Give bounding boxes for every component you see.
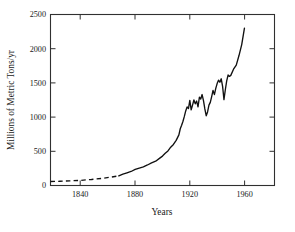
x-tick-label: 1840 (72, 190, 88, 199)
chart-figure: 0 500 1000 1500 2000 2500 1840 1880 1920… (0, 0, 295, 232)
coal-production-line-chart: 0 500 1000 1500 2000 2500 1840 1880 1920… (0, 0, 295, 232)
series-line-measured (119, 28, 245, 176)
y-axis-title: Millions of Metric Tons/yr (6, 49, 16, 150)
x-axis-title: Years (152, 207, 173, 217)
y-tick-label: 1000 (30, 113, 46, 122)
x-axis-tick-labels: 1840 1880 1920 1960 (72, 190, 253, 199)
x-tick-label: 1880 (127, 190, 143, 199)
y-axis-tick-labels: 0 500 1000 1500 2000 2500 (30, 10, 46, 190)
y-tick-label: 2000 (30, 45, 46, 54)
y-axis-ticks (51, 15, 275, 186)
x-tick-label: 1920 (182, 190, 198, 199)
plot-frame (51, 15, 275, 186)
y-tick-label: 1500 (30, 79, 46, 88)
x-tick-label: 1960 (236, 190, 252, 199)
x-axis-ticks (80, 15, 244, 186)
series-line-estimated (51, 176, 119, 182)
y-tick-label: 0 (42, 181, 46, 190)
y-tick-label: 2500 (30, 10, 46, 19)
y-tick-label: 500 (34, 147, 46, 156)
